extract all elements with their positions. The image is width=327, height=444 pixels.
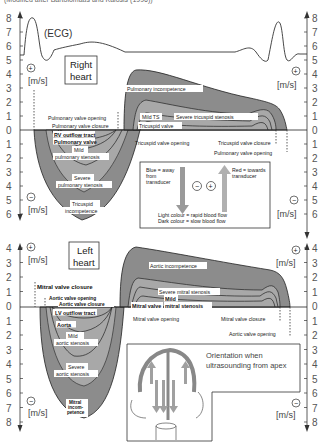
svg-text:2: 2	[312, 97, 318, 108]
label-pulmonary-valve: Pulmonary valve	[54, 139, 97, 145]
svg-text:−: −	[195, 183, 199, 190]
label-severe-ps-2: pulmonary stenosis	[58, 182, 103, 188]
right-ticks-top: 8 7 6 5 4 3 2 1 0 1 2 3 4 5 6	[312, 13, 318, 220]
label-pulmonary-valve-closure: Pulmonary valve closure	[52, 123, 109, 129]
left-ticks-top: 8 7 6 5 4 3 2 1 0 1 2 3 4 5 6	[6, 13, 12, 220]
unit-bottom-right-neg: [m/s]	[276, 410, 296, 420]
svg-text:0: 0	[312, 125, 318, 136]
svg-text:4: 4	[6, 69, 12, 80]
left-axis-bottom	[18, 243, 23, 432]
left-tick-marks-top	[20, 18, 23, 214]
svg-text:4: 4	[6, 243, 12, 254]
label-tricuspid-valve: Tricuspid valve	[139, 123, 174, 129]
down-arrow-icon	[180, 167, 185, 207]
label-aortic-incompetence: Aortic incompetence	[150, 263, 197, 269]
svg-text:5: 5	[312, 55, 318, 66]
svg-text:3: 3	[6, 167, 12, 178]
label-tricuspid-incomp-2: incompetence	[65, 208, 97, 214]
label-severe-ms: Severe mitral stenosis	[159, 289, 210, 295]
svg-text:5: 5	[312, 374, 318, 385]
svg-text:3: 3	[6, 83, 12, 94]
label-aortic-valve-opening: Aortic valve opening	[49, 296, 96, 301]
svg-text:5: 5	[6, 195, 12, 206]
orientation-text-1: Orientation when	[206, 351, 263, 360]
svg-text:1: 1	[312, 111, 318, 122]
legend-blue-3: transducer	[146, 179, 171, 185]
label-mitral-valve-opening: Mitral valve opening	[133, 316, 179, 322]
svg-text:1: 1	[6, 111, 12, 122]
svg-text:8: 8	[6, 13, 12, 24]
ecg-label: (ECG)	[44, 28, 72, 39]
svg-text:4: 4	[312, 359, 318, 370]
label-severe-as-1: Severe	[68, 364, 85, 370]
svg-text:3: 3	[6, 345, 12, 356]
caption: (Modified after Bartolomäus and Kalosis …	[4, 0, 153, 4]
unit-bottom-left-pos: [m/s]	[28, 255, 48, 265]
svg-text:3: 3	[312, 258, 318, 269]
svg-text:+: +	[294, 68, 298, 75]
label-tricuspid-incomp-1: Tricuspid	[72, 201, 93, 207]
right-ticks-bottom: 4 3 2 1 0 1 2 3 4 5 6 7 8	[312, 243, 318, 428]
svg-text:6: 6	[312, 388, 318, 399]
label-lv-outflow-tract: LV outflow tract	[55, 310, 96, 316]
up-arrow-icon	[222, 172, 227, 212]
svg-text:1: 1	[6, 139, 12, 150]
svg-text:5: 5	[6, 374, 12, 385]
legend-dark: Dark colour = slow blood flow	[158, 218, 226, 224]
svg-text:1: 1	[6, 316, 12, 327]
label-mild-as-1: Mild	[68, 333, 78, 339]
svg-text:3: 3	[6, 258, 12, 269]
right-heart-title-2: heart	[70, 71, 92, 82]
svg-text:1: 1	[312, 139, 318, 150]
svg-text:0: 0	[6, 301, 12, 312]
label-mild-as-2: aortic stenosis	[56, 340, 90, 346]
left-heart-title-1: Left	[77, 245, 93, 256]
unit-top-right-neg: [m/s]	[277, 209, 297, 219]
label-aortic-valve-closure: Aortic valve closure	[59, 302, 105, 307]
unit-top-left-pos: [m/s]	[28, 76, 48, 86]
unit-top-left-neg: [m/s]	[28, 205, 48, 215]
label-mitral-valve: Mitral valve	[132, 303, 161, 309]
svg-text:7: 7	[312, 403, 318, 414]
svg-text:2: 2	[312, 330, 318, 341]
svg-text:−: −	[294, 400, 298, 407]
svg-text:−: −	[29, 194, 33, 201]
label-severe-ts: Severe tricuspid stenosis	[176, 114, 234, 120]
svg-text:5: 5	[6, 55, 12, 66]
svg-text:6: 6	[312, 41, 318, 52]
svg-text:4: 4	[6, 359, 12, 370]
svg-text:8: 8	[312, 13, 318, 24]
svg-text:6: 6	[312, 209, 318, 220]
svg-text:2: 2	[312, 153, 318, 164]
label-pulmonary-valve-opening-r: Pulmonary valve opening	[214, 150, 272, 156]
svg-text:7: 7	[6, 27, 12, 38]
label-severe-as-2: aortic stenosis	[56, 371, 90, 377]
svg-text:2: 2	[6, 272, 12, 283]
svg-text:3: 3	[312, 83, 318, 94]
svg-text:8: 8	[312, 417, 318, 428]
svg-text:7: 7	[312, 27, 318, 38]
label-mitral-valve-closure: Mitral valve closure	[37, 284, 93, 290]
label-severe-ps-1: Severe	[74, 175, 91, 181]
label-mitral-incomp-3: petence	[67, 410, 85, 415]
ecg-waveform	[20, 18, 307, 61]
unit-bottom-left-neg: [m/s]	[28, 408, 48, 418]
label-pulmonary-incompetence: Pulmonary incompetence	[127, 86, 186, 92]
svg-text:8: 8	[6, 417, 12, 428]
svg-text:3: 3	[312, 345, 318, 356]
label-aorta: Aorta	[57, 322, 72, 328]
svg-text:4: 4	[312, 243, 318, 254]
svg-text:+: +	[294, 247, 298, 254]
svg-text:−: −	[29, 398, 33, 405]
svg-text:6: 6	[6, 41, 12, 52]
svg-text:2: 2	[6, 153, 12, 164]
label-pulmonary-valve-opening: Pulmonary valve opening	[48, 115, 106, 121]
doppler-diagram: (Modified after Bartolomäus and Kalosis …	[0, 0, 327, 444]
svg-text:4: 4	[312, 69, 318, 80]
svg-text:+: +	[29, 65, 33, 72]
left-heart-title-2: heart	[73, 257, 95, 268]
flow-legend-box: Blue = away from transducer − + Red = to…	[140, 162, 270, 228]
unit-top-right-pos: [m/s]	[277, 80, 297, 90]
svg-text:1: 1	[6, 287, 12, 298]
legend-red-2: transducer	[232, 173, 257, 179]
